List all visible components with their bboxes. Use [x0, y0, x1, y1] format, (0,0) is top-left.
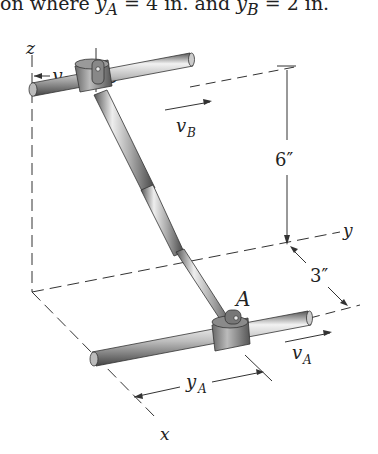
dimension-3in: 3″	[290, 246, 348, 306]
collar-A: A	[212, 287, 250, 351]
collar-B	[75, 59, 112, 92]
velocity-vA: v A	[285, 330, 332, 367]
y-axis-label: y	[342, 220, 353, 240]
x-axis: x	[32, 292, 170, 444]
x-axis-label: x	[160, 424, 170, 444]
offset-label: 3″	[310, 265, 328, 286]
vA-sub: A	[302, 353, 312, 367]
vA-label: v	[292, 342, 302, 363]
dimension-yA: y A	[134, 355, 272, 399]
yA-label: y	[185, 371, 197, 392]
connecting-rod	[94, 90, 236, 333]
height-label: 6″	[275, 149, 293, 170]
upper-rod-line	[190, 66, 300, 87]
z-axis-label: z	[25, 38, 36, 58]
dimension-6in: 6″	[275, 66, 296, 245]
vB-label: v	[176, 115, 186, 136]
point-A-label: A	[234, 287, 250, 311]
lower-rod	[90, 311, 313, 366]
y-axis: y	[32, 220, 353, 292]
mechanism-diagram: z y x 6″ 3″ y B B	[0, 0, 378, 454]
velocity-vB: v B	[165, 99, 212, 140]
vB-sub: B	[186, 126, 196, 140]
lower-rod-line	[310, 305, 360, 318]
yA-sub: A	[197, 382, 207, 396]
